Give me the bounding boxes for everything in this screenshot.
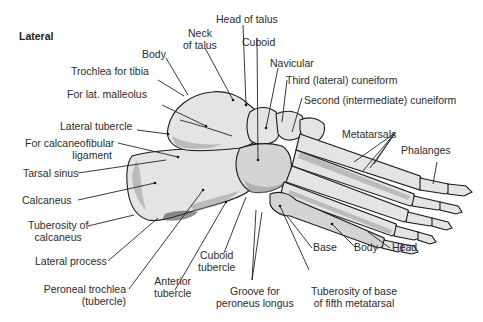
label-body-talus: Body (142, 48, 166, 60)
foot-skeleton-illustration (0, 0, 483, 322)
label-base: Base (313, 241, 337, 253)
label-neck-of-talus: Neck of talus (183, 27, 217, 51)
label-tuberosity-of-calcaneus: Tuberosity of calcaneus (28, 219, 88, 243)
anatomy-figure: Lateral Head of talus Neck of talus Body… (0, 0, 483, 322)
label-groove-for-peroneus-longus: Groove for peroneus longus (216, 285, 294, 309)
view-title: Lateral (19, 30, 53, 42)
label-navicular: Navicular (270, 57, 314, 69)
label-for-lat-malleolus: For lat. malleolus (67, 88, 147, 100)
label-third-cuneiform: Third (lateral) cuneiform (286, 74, 397, 86)
label-phalanges: Phalanges (401, 144, 451, 156)
label-for-calcaneofibular-ligament: For calcaneofibular ligament (25, 137, 112, 161)
label-second-cuneiform: Second (intermediate) cuneiform (304, 94, 456, 106)
label-anterior-tubercle: Anterior tubercle (154, 275, 191, 299)
label-tarsal-sinus: Tarsal sinus (23, 167, 78, 179)
label-lateral-tubercle: Lateral tubercle (60, 120, 132, 132)
label-metatarsals: Metatarsals (342, 128, 396, 140)
label-calcaneus: Calcaneus (22, 194, 72, 206)
label-cuboid: Cuboid (242, 36, 275, 48)
label-metatarsal-body: Body (354, 241, 378, 253)
label-tuberosity-fifth-metatarsal: Tuberosity of base of fifth metatarsal (311, 285, 397, 309)
label-trochlea-for-tibia: Trochlea for tibia (71, 65, 149, 77)
label-peroneal-trochlea: Peroneal trochlea (tubercle) (40, 283, 126, 307)
label-metatarsal-head: Head (392, 241, 417, 253)
label-lateral-process: Lateral process (35, 255, 107, 267)
label-head-of-talus: Head of talus (216, 13, 278, 25)
label-cuboid-tubercle: Cuboid tubercle (198, 249, 235, 273)
